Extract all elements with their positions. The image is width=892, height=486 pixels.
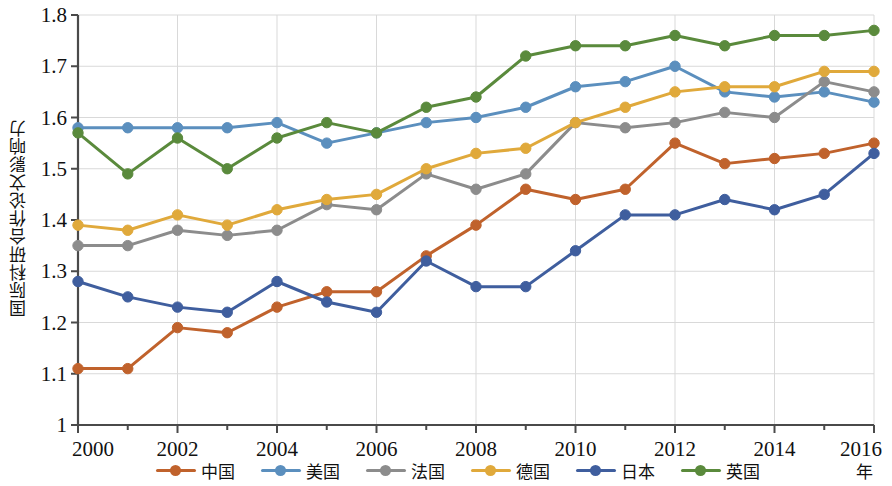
data-point[interactable] [272,225,282,235]
data-point[interactable] [73,276,83,286]
data-point[interactable] [620,76,630,86]
data-point[interactable] [570,194,580,204]
data-point[interactable] [570,41,580,51]
data-point[interactable] [819,66,829,76]
data-point[interactable] [322,138,332,148]
data-point[interactable] [869,87,879,97]
data-point[interactable] [421,102,431,112]
data-point[interactable] [322,117,332,127]
data-point[interactable] [371,128,381,138]
data-point[interactable] [670,87,680,97]
data-point[interactable] [222,307,232,317]
data-point[interactable] [620,210,630,220]
data-point[interactable] [471,148,481,158]
data-point[interactable] [769,30,779,40]
data-point[interactable] [620,184,630,194]
data-point[interactable] [172,133,182,143]
data-point[interactable] [471,220,481,230]
data-point[interactable] [272,302,282,312]
data-point[interactable] [620,123,630,133]
data-point[interactable] [272,133,282,143]
data-point[interactable] [222,220,232,230]
data-point[interactable] [869,148,879,158]
data-point[interactable] [73,128,83,138]
data-point[interactable] [521,281,531,291]
data-point[interactable] [521,143,531,153]
data-point[interactable] [421,256,431,266]
data-point[interactable] [371,205,381,215]
data-point[interactable] [670,138,680,148]
data-point[interactable] [720,158,730,168]
data-point[interactable] [322,194,332,204]
data-point[interactable] [172,302,182,312]
data-point[interactable] [371,307,381,317]
data-point[interactable] [670,117,680,127]
legend-item-英国[interactable]: 英国 [681,458,760,483]
data-point[interactable] [73,363,83,373]
data-point[interactable] [471,184,481,194]
data-point[interactable] [769,92,779,102]
data-point[interactable] [73,240,83,250]
data-point[interactable] [720,41,730,51]
data-point[interactable] [521,102,531,112]
data-point[interactable] [421,164,431,174]
data-point[interactable] [620,41,630,51]
legend-item-法国[interactable]: 法国 [366,458,445,483]
data-point[interactable] [521,51,531,61]
data-point[interactable] [471,281,481,291]
data-point[interactable] [272,205,282,215]
data-point[interactable] [819,30,829,40]
data-point[interactable] [869,25,879,35]
data-point[interactable] [869,66,879,76]
data-point[interactable] [222,123,232,133]
data-point[interactable] [819,148,829,158]
data-point[interactable] [570,82,580,92]
data-point[interactable] [869,97,879,107]
data-point[interactable] [371,287,381,297]
data-point[interactable] [471,112,481,122]
data-point[interactable] [620,102,630,112]
data-point[interactable] [123,169,133,179]
data-point[interactable] [222,164,232,174]
data-point[interactable] [769,112,779,122]
data-point[interactable] [769,205,779,215]
data-point[interactable] [322,297,332,307]
data-point[interactable] [222,230,232,240]
data-point[interactable] [123,225,133,235]
data-point[interactable] [769,153,779,163]
legend-item-美国[interactable]: 美国 [261,458,340,483]
data-point[interactable] [73,220,83,230]
data-point[interactable] [769,82,779,92]
data-point[interactable] [521,169,531,179]
data-point[interactable] [819,189,829,199]
data-point[interactable] [222,328,232,338]
data-point[interactable] [123,292,133,302]
data-point[interactable] [670,61,680,71]
data-point[interactable] [471,92,481,102]
data-point[interactable] [172,123,182,133]
data-point[interactable] [272,276,282,286]
data-point[interactable] [720,107,730,117]
data-point[interactable] [720,194,730,204]
data-point[interactable] [371,189,381,199]
data-point[interactable] [272,117,282,127]
data-point[interactable] [172,322,182,332]
data-point[interactable] [172,210,182,220]
data-point[interactable] [123,363,133,373]
data-point[interactable] [670,210,680,220]
data-point[interactable] [570,117,580,127]
legend-item-中国[interactable]: 中国 [156,458,235,483]
legend-item-德国[interactable]: 德国 [471,458,550,483]
data-point[interactable] [819,76,829,86]
data-point[interactable] [123,240,133,250]
data-point[interactable] [421,117,431,127]
data-point[interactable] [670,30,680,40]
data-point[interactable] [172,225,182,235]
data-point[interactable] [322,287,332,297]
data-point[interactable] [869,138,879,148]
data-point[interactable] [521,184,531,194]
data-point[interactable] [570,246,580,256]
data-point[interactable] [819,87,829,97]
data-point[interactable] [720,82,730,92]
legend-item-日本[interactable]: 日本 [576,458,655,483]
